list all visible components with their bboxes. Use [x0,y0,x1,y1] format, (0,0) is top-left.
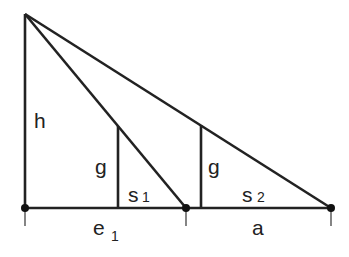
label-h: h [34,109,46,132]
label-s1-subscript: 1 [142,189,150,205]
similar-triangles-diagram: h g g s 1 s 2 e 1 a [0,0,349,257]
label-a: a [252,216,264,239]
label-g-2: g [208,155,220,178]
point-left [21,204,29,212]
point-mid [182,204,190,212]
label-e1: e [93,216,105,239]
hypotenuse-inner [25,14,186,208]
label-e1-subscript: 1 [111,228,119,244]
hypotenuse-outer [25,14,331,208]
label-s1: s [128,183,139,206]
label-g-1: g [95,155,107,178]
point-right [327,204,335,212]
label-s2-subscript: 2 [257,189,265,205]
label-s2: s [242,183,253,206]
